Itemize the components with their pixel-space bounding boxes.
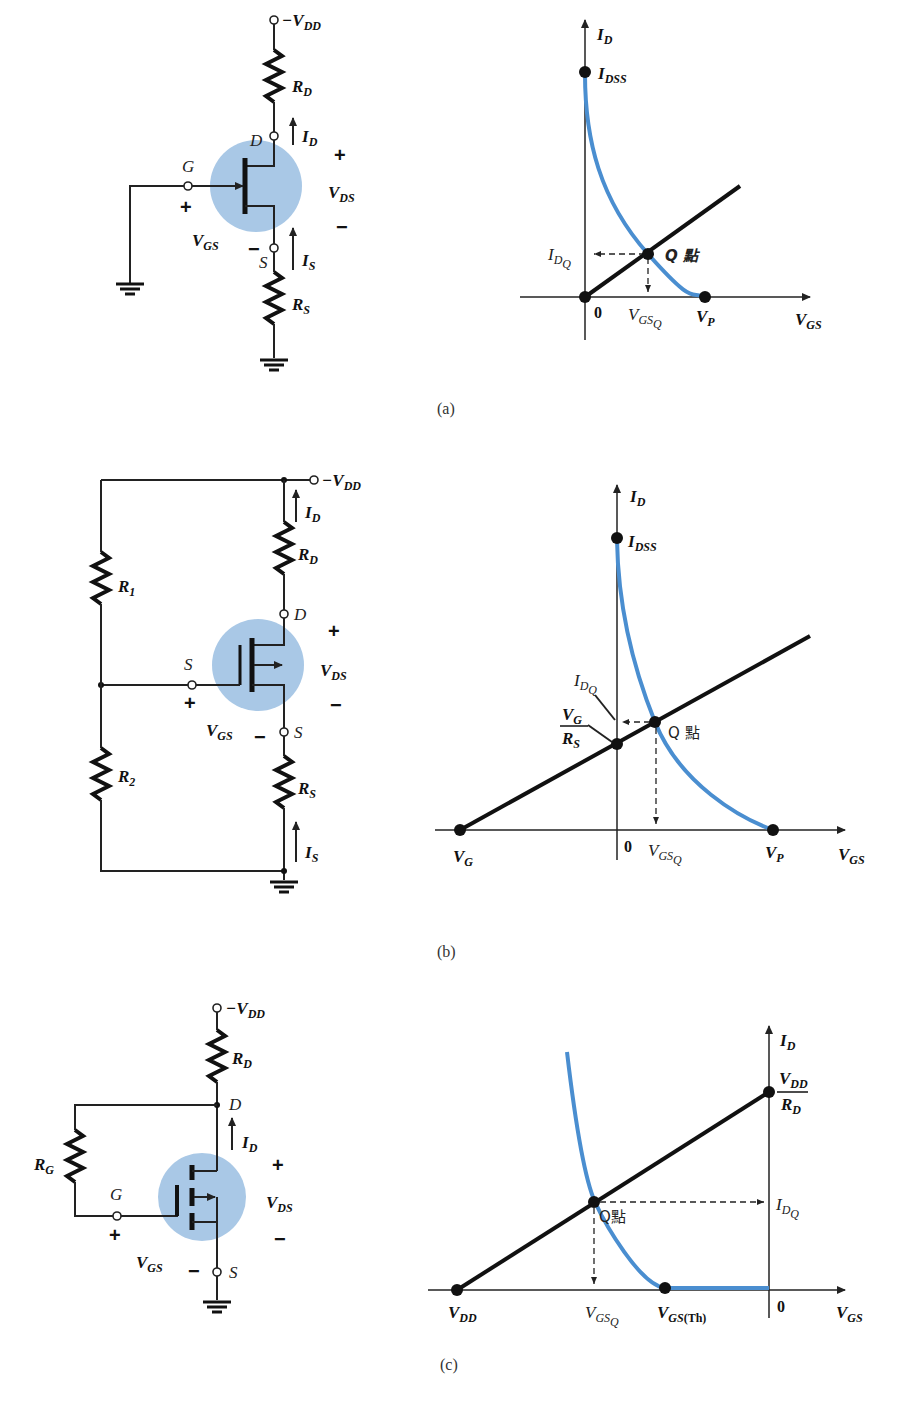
svg-text:+: +: [272, 1154, 284, 1176]
point-idss: [579, 66, 591, 78]
graph-a: ID VGS IDSS IDQ Q 點 0 VGSQ VP: [520, 20, 822, 340]
svg-text:IS: IS: [304, 843, 319, 865]
circuit-a: −VDD RD ID D G + VGS − S IS RS: [116, 11, 355, 370]
graph-b: ID VGS IDSS IDQ VG RS Q 點 VG 0 VGSQ VP: [435, 485, 865, 869]
caption-c: (c): [440, 1356, 458, 1374]
svg-text:−: −: [274, 1228, 286, 1250]
svg-text:VGSQ: VGSQ: [628, 305, 662, 331]
svg-text:+: +: [109, 1224, 121, 1246]
svg-text:RS: RS: [297, 779, 316, 801]
label-id: ID: [301, 127, 318, 149]
svg-text:RD: RD: [780, 1095, 801, 1117]
resistor-rs: [276, 756, 292, 808]
svg-text:0: 0: [624, 838, 632, 855]
svg-text:ID: ID: [241, 1133, 258, 1155]
svg-text:ID: ID: [629, 487, 646, 509]
resistor-rd: [209, 1030, 225, 1082]
svg-text:R1: R1: [117, 577, 135, 599]
svg-text:IDSS: IDSS: [627, 532, 657, 554]
svg-text:VDD: VDD: [779, 1069, 808, 1091]
resistor-rg: [67, 1130, 83, 1182]
label-supply: −VDD: [282, 11, 321, 33]
label-gate: G: [182, 157, 194, 176]
svg-text:Q點: Q點: [599, 1208, 626, 1226]
resistor-rs: [266, 272, 282, 324]
graph-c: ID VGS VDD RD IDQ Q點 VDD VGSQ VGS(Th) 0: [428, 1026, 863, 1329]
label-is: IS: [301, 251, 316, 273]
svg-text:VGS: VGS: [795, 310, 822, 332]
svg-text:VG: VG: [453, 847, 473, 869]
svg-text:VDD: VDD: [448, 1303, 477, 1325]
svg-text:D: D: [228, 1095, 242, 1114]
svg-text:D: D: [293, 605, 307, 624]
svg-text:IDQ: IDQ: [573, 671, 597, 697]
svg-text:VGSQ: VGSQ: [585, 1303, 619, 1329]
svg-text:IDSS: IDSS: [597, 64, 627, 86]
svg-text:ID: ID: [779, 1031, 796, 1053]
svg-text:VGS: VGS: [838, 845, 865, 867]
figure-canvas: −VDD RD ID D G + VGS − S IS RS: [0, 0, 897, 1410]
resistor-rd: [266, 50, 282, 102]
svg-text:IDQ: IDQ: [775, 1195, 799, 1221]
svg-text:−VDD: −VDD: [322, 471, 361, 493]
label-rs: RS: [291, 295, 310, 317]
svg-text:VP: VP: [696, 307, 715, 329]
svg-text:0: 0: [594, 304, 602, 321]
point-vp: [699, 291, 711, 303]
svg-text:VDS: VDS: [266, 1193, 293, 1215]
terminal-gate: [184, 182, 192, 190]
svg-text:VDS: VDS: [320, 661, 347, 683]
svg-text:−: −: [188, 1260, 200, 1282]
svg-text:−: −: [254, 726, 266, 748]
resistor-rd: [276, 522, 292, 574]
svg-text:Q 點: Q 點: [665, 247, 701, 265]
ground-icon: [116, 284, 144, 294]
ground-icon: [203, 1302, 231, 1312]
load-line: [585, 186, 740, 297]
svg-text:VGS: VGS: [136, 1253, 163, 1275]
svg-text:ID: ID: [304, 503, 321, 525]
svg-text:VGS: VGS: [836, 1303, 863, 1325]
q-point: [588, 1196, 600, 1208]
label-drain: D: [249, 131, 263, 150]
svg-text:R2: R2: [117, 767, 135, 789]
svg-text:ID: ID: [596, 25, 613, 47]
svg-text:S: S: [229, 1263, 238, 1282]
svg-text:VGS: VGS: [206, 721, 233, 743]
svg-text:VG: VG: [562, 705, 582, 727]
label-rd: RD: [291, 77, 312, 99]
terminal-vdd: [270, 16, 278, 24]
label-vgs: VGS: [192, 231, 219, 253]
caption-a: (a): [437, 400, 455, 418]
svg-text:−: −: [336, 216, 348, 238]
svg-text:−VDD: −VDD: [226, 999, 265, 1021]
q-point: [642, 248, 654, 260]
point-origin: [579, 291, 591, 303]
transfer-curve: [567, 1052, 769, 1288]
ground-icon: [270, 882, 298, 892]
svg-text:−: −: [330, 694, 342, 716]
circuit-c: −VDD RD D ID RG G + VGS − S +: [33, 999, 293, 1312]
svg-text:0: 0: [777, 1298, 785, 1315]
svg-text:S: S: [294, 723, 303, 742]
q-point: [649, 716, 661, 728]
caption-b: (b): [437, 943, 456, 961]
terminal-vdd: [310, 476, 318, 484]
terminal-source: [270, 244, 278, 252]
svg-text:RS: RS: [561, 729, 580, 751]
svg-text:RD: RD: [297, 545, 318, 567]
resistor-r1: [93, 552, 109, 604]
svg-text:G: G: [110, 1185, 122, 1204]
svg-text:+: +: [184, 692, 196, 714]
svg-text:+: +: [180, 196, 192, 218]
svg-text:IDQ: IDQ: [547, 245, 571, 271]
terminal-drain: [270, 132, 278, 140]
label-vds: VDS: [328, 183, 355, 205]
ground-icon: [260, 360, 288, 370]
load-line: [457, 1092, 769, 1290]
label-source: S: [259, 253, 268, 272]
svg-text:S: S: [184, 655, 193, 674]
svg-text:Q 點: Q 點: [668, 724, 700, 742]
svg-text:+: +: [328, 620, 340, 642]
svg-text:RD: RD: [231, 1049, 252, 1071]
